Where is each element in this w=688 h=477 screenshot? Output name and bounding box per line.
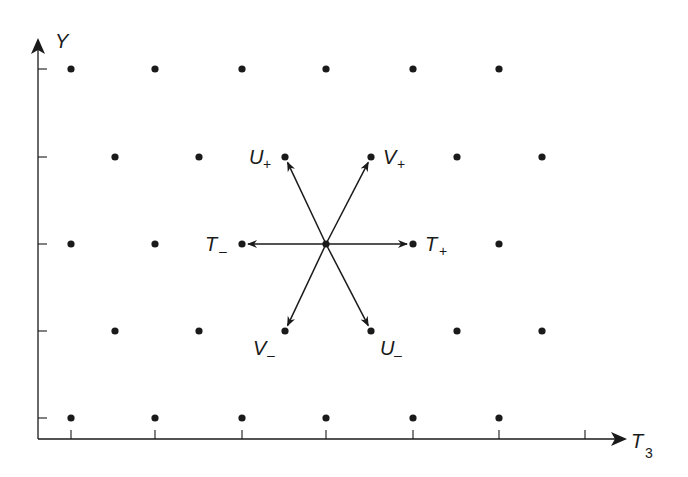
lattice-point <box>195 153 202 160</box>
svg-text:+: + <box>397 156 405 172</box>
lattice-point <box>409 414 416 421</box>
operator-label-Vminus: V– <box>253 337 275 363</box>
lattice-point <box>111 327 118 334</box>
lattice-point <box>151 414 158 421</box>
lattice-point <box>409 240 416 247</box>
lattice-point <box>238 414 245 421</box>
lattice-point <box>538 327 545 334</box>
svg-text:–: – <box>219 243 227 259</box>
lattice-point <box>281 153 288 160</box>
lattice-point <box>151 240 158 247</box>
operator-arrow-Vminus <box>288 244 326 326</box>
svg-text:–: – <box>394 347 402 363</box>
svg-text:T: T <box>205 233 219 255</box>
operator-arrow-Vplus <box>326 162 368 244</box>
svg-text:U: U <box>249 146 264 168</box>
lattice-point <box>322 65 329 72</box>
lattice-point <box>495 240 502 247</box>
lattice-point <box>281 327 288 334</box>
lattice-point <box>238 240 245 247</box>
lattice-point <box>67 65 74 72</box>
svg-text:+: + <box>439 243 447 259</box>
lattice-point <box>453 153 460 160</box>
svg-text:V: V <box>253 337 268 359</box>
lattice-point <box>111 153 118 160</box>
operator-label-Tminus: T– <box>205 233 227 259</box>
operator-label-Uminus: U– <box>380 337 402 363</box>
x-axis-label-subscript: 3 <box>645 445 653 461</box>
lattice-point <box>409 65 416 72</box>
svg-text:+: + <box>263 156 271 172</box>
lattice-point <box>195 327 202 334</box>
x-axis-label: T <box>631 430 645 452</box>
lattice-point <box>238 65 245 72</box>
y-axis-label: Y <box>55 30 70 52</box>
lattice-point <box>151 65 158 72</box>
lattice-point <box>453 327 460 334</box>
lattice-point <box>495 414 502 421</box>
svg-text:–: – <box>267 347 275 363</box>
svg-text:U: U <box>380 337 395 359</box>
lattice-point <box>367 327 374 334</box>
svg-text:T: T <box>425 233 439 255</box>
operator-arrow-Uplus <box>288 162 326 244</box>
diagram-canvas: YT3 U+V+T–T+V–U– <box>0 0 688 477</box>
operator-label-Uplus: U+ <box>249 146 271 172</box>
center-point <box>323 241 328 246</box>
operator-label-Vplus: V+ <box>383 146 405 172</box>
lattice-point <box>322 414 329 421</box>
axes: YT3 <box>38 30 653 461</box>
lattice-point <box>67 240 74 247</box>
lattice-point <box>67 414 74 421</box>
lattice-point <box>538 153 545 160</box>
ladder-operators: U+V+T–T+V–U– <box>205 146 447 363</box>
lattice-point <box>495 65 502 72</box>
operator-label-Tplus: T+ <box>425 233 447 259</box>
lattice-point <box>367 153 374 160</box>
svg-text:V: V <box>383 146 398 168</box>
operator-arrow-Uminus <box>326 244 368 326</box>
weight-diagram: YT3 U+V+T–T+V–U– <box>0 0 688 477</box>
